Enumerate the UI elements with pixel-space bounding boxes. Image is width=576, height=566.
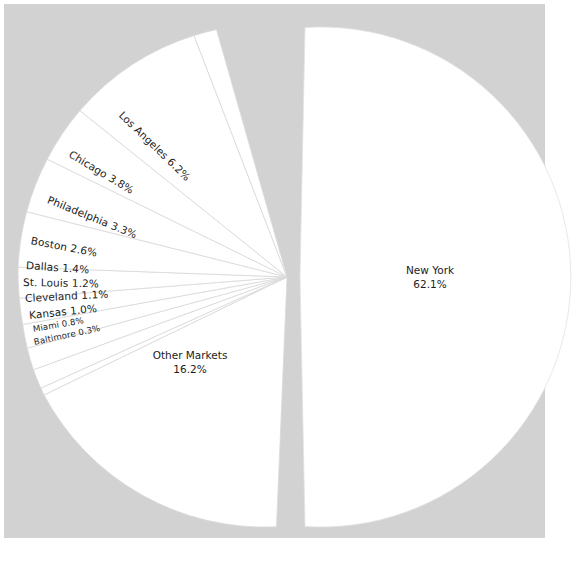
- pie-label-new-york-name: New York: [358, 263, 502, 277]
- pie-label-other-markets: Other Markets 16.2%: [118, 348, 262, 376]
- pie-label-other-markets-name: Other Markets: [118, 348, 262, 362]
- pie-label-other-markets-value: 16.2%: [118, 362, 262, 376]
- pie-label-new-york-value: 62.1%: [358, 277, 502, 291]
- pie-label-st-louis: St. Louis 1.2%: [23, 276, 99, 289]
- chart-canvas: Los Angeles 6.2% Chicago 3.8% Philadelph…: [0, 0, 576, 566]
- pie-label-new-york: New York 62.1%: [358, 263, 502, 291]
